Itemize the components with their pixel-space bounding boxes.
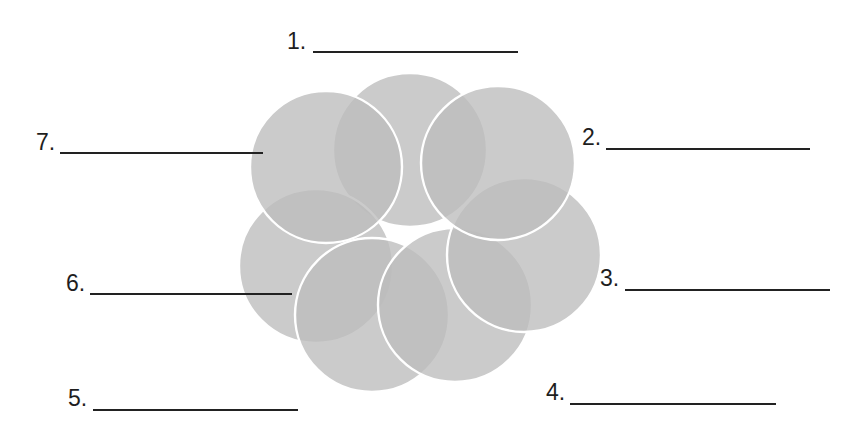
label-4-answer-line[interactable]	[570, 403, 776, 405]
label-1-answer-line[interactable]	[313, 51, 518, 53]
label-5-answer-line[interactable]	[93, 409, 298, 411]
label-4-number: 4.	[546, 381, 565, 404]
circle-7	[250, 91, 402, 243]
label-7-answer-line[interactable]	[60, 152, 263, 154]
label-7-number: 7.	[36, 131, 55, 154]
label-3-answer-line[interactable]	[625, 289, 830, 291]
label-5-number: 5.	[68, 387, 87, 410]
seven-circle-diagram	[0, 0, 861, 433]
label-2-number: 2.	[582, 126, 601, 149]
label-6-answer-line[interactable]	[90, 293, 292, 295]
label-2-answer-line[interactable]	[606, 148, 810, 150]
label-3-number: 3.	[600, 267, 619, 290]
label-6-number: 6.	[66, 272, 85, 295]
label-1-number: 1.	[287, 30, 306, 53]
circle-2	[421, 86, 575, 240]
